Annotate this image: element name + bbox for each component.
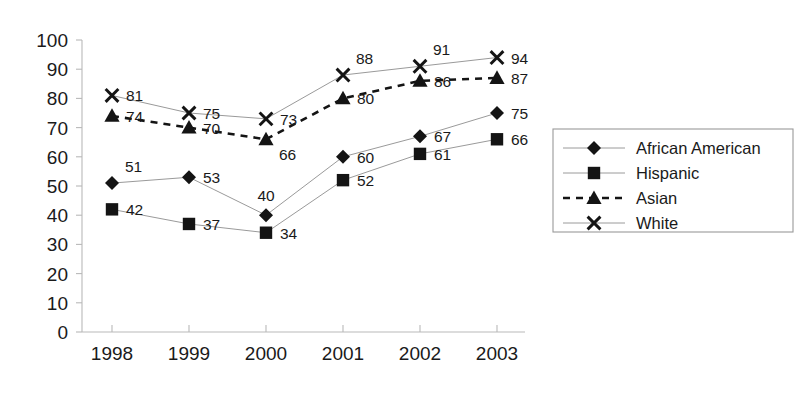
data-label: 91 — [433, 41, 450, 58]
x-tick-label: 2003 — [476, 343, 518, 364]
marker-square — [414, 148, 426, 160]
data-label: 73 — [280, 111, 297, 128]
marker-square — [106, 203, 118, 215]
marker-square — [260, 227, 272, 239]
marker-square — [337, 174, 349, 186]
data-label: 42 — [126, 201, 143, 218]
legend-label: Asian — [636, 189, 677, 207]
marker-square — [183, 218, 195, 230]
data-label: 81 — [126, 87, 143, 104]
data-label: 67 — [434, 128, 451, 145]
marker-square — [491, 133, 503, 145]
y-tick-label: 0 — [57, 322, 68, 343]
x-tick-label: 2001 — [322, 343, 364, 364]
data-label: 80 — [357, 90, 375, 107]
x-tick-label: 1998 — [91, 343, 133, 364]
legend-label: White — [636, 214, 678, 232]
data-label: 60 — [357, 149, 375, 166]
data-label: 61 — [434, 146, 451, 163]
y-tick-label: 80 — [47, 88, 68, 109]
data-label: 34 — [280, 225, 298, 242]
data-label: 74 — [126, 108, 144, 125]
data-label: 75 — [203, 105, 220, 122]
data-label: 40 — [257, 187, 275, 204]
chart-canvas: 0102030405060708090100 19981999200020012… — [0, 0, 810, 407]
data-label: 94 — [511, 50, 529, 67]
x-tick-label: 2002 — [399, 343, 441, 364]
data-label: 37 — [203, 216, 220, 233]
legend-marker-square — [588, 167, 600, 179]
data-label: 66 — [279, 146, 296, 163]
data-label: 53 — [203, 169, 220, 186]
legend-label: African American — [636, 139, 761, 157]
legend-label: Hispanic — [636, 164, 699, 182]
y-tick-label: 40 — [47, 205, 68, 226]
y-tick-label: 30 — [47, 234, 68, 255]
y-tick-label: 20 — [47, 264, 68, 285]
y-tick-label: 60 — [47, 147, 68, 168]
line-chart: 0102030405060708090100 19981999200020012… — [0, 0, 810, 407]
data-label: 88 — [356, 50, 373, 67]
data-label: 70 — [203, 120, 221, 137]
data-label: 75 — [511, 105, 528, 122]
chart-legend: African AmericanHispanicAsianWhite — [553, 129, 793, 232]
x-tick-label: 2000 — [245, 343, 287, 364]
data-label: 86 — [434, 73, 451, 90]
y-tick-label: 90 — [47, 59, 68, 80]
data-label: 87 — [511, 70, 528, 87]
x-tick-label: 1999 — [168, 343, 210, 364]
y-tick-label: 10 — [47, 293, 68, 314]
data-label: 66 — [511, 131, 528, 148]
data-label: 52 — [357, 172, 374, 189]
y-tick-label: 50 — [47, 176, 68, 197]
y-tick-label: 100 — [36, 30, 68, 51]
data-label: 51 — [125, 158, 142, 175]
y-tick-label: 70 — [47, 118, 68, 139]
